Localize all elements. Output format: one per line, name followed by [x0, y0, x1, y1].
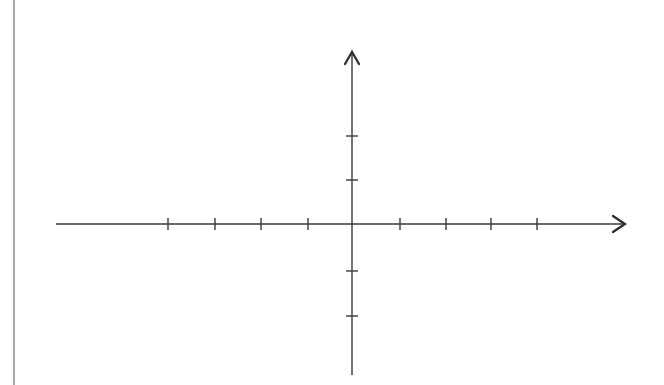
x-axis	[56, 216, 625, 232]
y-axis	[345, 52, 359, 375]
coordinate-plane	[0, 0, 664, 385]
